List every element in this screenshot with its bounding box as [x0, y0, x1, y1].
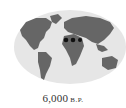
- site-marker: [64, 38, 69, 43]
- site-marker: [78, 38, 82, 42]
- caption-era: B.P.: [70, 96, 83, 104]
- map-caption: 6,000B.P.: [0, 92, 126, 104]
- site-marker: [71, 38, 76, 43]
- caption-year: 6,000: [42, 92, 68, 104]
- world-map: [0, 0, 126, 90]
